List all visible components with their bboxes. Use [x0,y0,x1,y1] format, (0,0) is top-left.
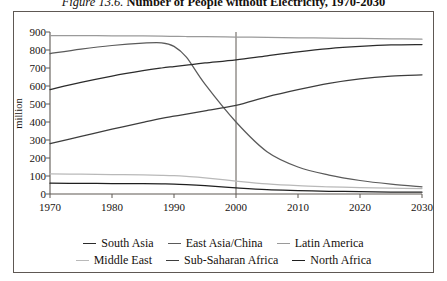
legend-label-latin-america: Latin America [295,237,364,250]
legend-swatch-middle-east [76,260,89,261]
legend-item-middle-east[interactable]: Middle East [76,254,152,267]
legend-label-sub-saharan-africa: Sub-Saharan Africa [184,254,278,267]
legend-item-latin-america[interactable]: Latin America [277,237,364,250]
legend-row-2: Middle East Sub-Saharan Africa North Afr… [13,252,434,269]
legend-item-south-asia[interactable]: South Asia [83,237,153,250]
legend-item-sub-saharan-africa[interactable]: Sub-Saharan Africa [166,254,278,267]
legend-swatch-east-asia-china [168,243,181,244]
legend-swatch-sub-saharan-africa [166,260,179,261]
figure-container: Figure 13.6. Number of People without El… [0,0,447,281]
legend-label-south-asia: South Asia [101,237,153,250]
legend-row-1: South Asia East Asia/China Latin America [13,235,434,252]
legend-swatch-latin-america [277,243,290,244]
legend-label-east-asia-china: East Asia/China [186,237,263,250]
legend-label-north-africa: North Africa [310,254,371,267]
legend-label-middle-east: Middle East [94,254,152,267]
legend-item-east-asia-china[interactable]: East Asia/China [168,237,263,250]
legend-swatch-south-asia [83,243,96,244]
chart-legend: South Asia East Asia/China Latin America… [13,235,434,269]
legend-swatch-north-africa [292,260,305,261]
legend-item-north-africa[interactable]: North Africa [292,254,371,267]
